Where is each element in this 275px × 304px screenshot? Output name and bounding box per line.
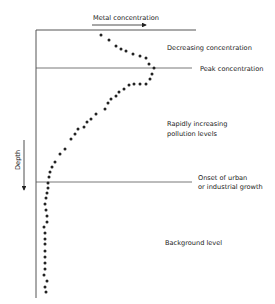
profile-dot	[46, 280, 49, 283]
profile-dot	[74, 133, 77, 136]
profile-dot	[148, 63, 151, 66]
profile-dot	[90, 118, 93, 121]
profile-dot	[100, 34, 103, 37]
profile-dot	[44, 256, 47, 259]
profile-dot	[45, 209, 48, 212]
profile-dot	[51, 166, 54, 169]
profile-dot	[107, 102, 110, 105]
profile-dot	[118, 91, 121, 94]
profile-dot	[139, 55, 142, 58]
profile-dot	[77, 128, 80, 131]
x-axis-label: Metal concentration	[93, 14, 159, 22]
profile-dot	[149, 78, 152, 81]
profile-dot	[86, 121, 89, 124]
profile-dot	[44, 243, 47, 246]
profile-dot	[44, 268, 47, 271]
label-peak: Peak concentration	[200, 65, 263, 73]
label-decreasing: Decreasing concentration	[167, 44, 252, 52]
y-axis-label: Depth	[14, 150, 22, 170]
profile-dot	[59, 153, 62, 156]
label-rapid-2: pollution levels	[167, 130, 217, 138]
profile-dot	[43, 226, 46, 229]
metal-profile-diagram: Metal concentration Depth Decreasing con…	[0, 0, 275, 304]
profile-dot	[120, 48, 123, 51]
profile-dot	[48, 176, 51, 179]
profile-dot	[145, 83, 148, 86]
profile-dot	[145, 57, 148, 60]
profile-dot	[46, 192, 49, 195]
profile-dot	[46, 215, 49, 218]
profile-dot	[108, 39, 111, 42]
label-background: Background level	[165, 239, 222, 247]
profile-dot	[115, 45, 118, 48]
profile-dot	[110, 98, 113, 101]
profile-dot	[95, 113, 98, 116]
profile-dot	[44, 238, 47, 241]
profile-dot	[123, 88, 126, 91]
profile-dot	[46, 221, 49, 224]
profile-dot	[44, 262, 47, 265]
profile-dot	[133, 83, 136, 86]
profile-dot	[139, 83, 142, 86]
profile-dot	[47, 182, 50, 185]
profile-dot	[153, 67, 156, 70]
profile-dot	[132, 53, 135, 56]
profile-dot	[151, 73, 154, 76]
profile-dot	[54, 161, 57, 164]
profile-dot	[45, 291, 48, 294]
concentration-profile-dots	[43, 34, 156, 294]
profile-dot	[45, 197, 48, 200]
profile-dot	[44, 232, 47, 235]
profile-dot	[49, 171, 52, 174]
profile-dot	[44, 203, 47, 206]
label-onset-2: or industrial growth	[198, 183, 263, 191]
label-onset-1: Onset of urban	[198, 174, 247, 182]
profile-dot	[125, 50, 128, 53]
profile-dot	[64, 148, 67, 151]
profile-dot	[83, 126, 86, 129]
label-rapid-1: Rapidly increasing	[167, 120, 227, 128]
profile-dot	[104, 108, 107, 111]
profile-dot	[44, 250, 47, 253]
profile-dot	[115, 95, 118, 98]
profile-dot	[44, 286, 47, 289]
profile-dot	[43, 274, 46, 277]
profile-dot	[47, 187, 50, 190]
profile-dot	[128, 84, 131, 87]
profile-dot	[70, 138, 73, 141]
